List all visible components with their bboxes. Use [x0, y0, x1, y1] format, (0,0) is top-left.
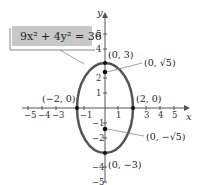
top-vertex-label: (0, 3) [108, 49, 134, 60]
x-axis-label: x [186, 111, 192, 122]
vertex-bottom-point [103, 151, 107, 155]
x-tick-label: 4 [158, 110, 163, 120]
focus-top-point [103, 70, 108, 75]
x-tick-label: −4 [38, 110, 51, 120]
left-vertex-label: (−2, 0) [42, 93, 76, 104]
y-tick-label: −1 [92, 118, 105, 128]
focus-bottom-leader [107, 129, 144, 136]
equation-label: 9x² + 4y² = 36 [20, 30, 102, 43]
x-tick-label: −5 [24, 110, 37, 120]
y-tick-label: 5 [96, 29, 101, 39]
x-tick-label: −1 [80, 110, 93, 120]
x-tick-label: −3 [52, 110, 65, 120]
y-axis-label: y [96, 7, 103, 18]
x-tick-label: 1 [116, 110, 121, 120]
bottom-vertex-label: (0, −3) [108, 159, 142, 170]
right-vertex-label: (2, 0) [136, 93, 162, 104]
focus-bottom-label: (0, −√5) [146, 131, 186, 142]
y-tick-label: −2 [92, 133, 105, 143]
ellipse-diagram: 9x² + 4y² = 36 −5 −4 −3 −1 1 3 4 5 x [0, 0, 202, 185]
vertex-top-point [103, 61, 107, 65]
x-axis: −5 −4 −3 −1 1 3 4 5 x [22, 105, 192, 122]
y-tick-label: 2 [96, 73, 101, 83]
focus-bottom-point [103, 127, 108, 132]
vertex-left-point [75, 106, 79, 110]
y-tick-label: 4 [96, 44, 101, 54]
vertex-right-point [131, 106, 135, 110]
equation-pointer [60, 50, 84, 64]
equation-box: 9x² + 4y² = 36 [10, 26, 102, 64]
x-tick-label: 5 [172, 110, 177, 120]
x-tick-label: 3 [144, 110, 149, 120]
focus-top-label: (0, √5) [144, 57, 176, 68]
y-tick-label: −5 [92, 177, 105, 185]
y-tick-label: −4 [92, 162, 105, 172]
y-tick-label: 1 [96, 88, 101, 98]
